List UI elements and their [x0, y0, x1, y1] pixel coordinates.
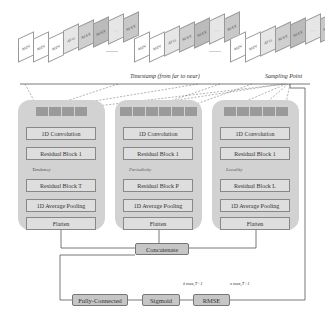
residual-block-1: Residual Block 1: [220, 147, 290, 160]
flatten-block: Flatten: [220, 217, 290, 230]
ellipsis: ……: [106, 47, 118, 53]
branch-locality: 1D Convolution Residual Block 1 Locality…: [212, 100, 299, 230]
residual-block-n: Residual Block P: [123, 179, 193, 192]
feature-map: [36, 107, 87, 116]
branch-tendency: 1D Convolution Residual Block 1 Tendency…: [18, 100, 105, 230]
avg-pool-block: 1D Average Pooling: [123, 199, 193, 212]
rmse-block: RMSE: [193, 294, 230, 306]
feature-map: [224, 107, 288, 116]
input-stack-near: MIN MIN AVG MAX MAX … MAX: [230, 15, 320, 60]
sampling-point-label: Sampling Point: [265, 73, 302, 79]
input-stack-far: MIN MIN MIN AVG MAX MAX … MAX: [18, 15, 128, 60]
conv-block: 1D Convolution: [26, 127, 96, 140]
avg-pool-block: 1D Average Pooling: [220, 199, 290, 212]
concatenate-block: Concatenate: [135, 243, 189, 255]
sigmoid-block: Sigmoid: [142, 294, 180, 306]
branch-periodicity: 1D Convolution Residual Block 1 Periodic…: [115, 100, 202, 230]
residual-block-n: Residual Block T: [26, 179, 96, 192]
feature-map: [120, 107, 197, 116]
conv-block: 1D Convolution: [220, 127, 290, 140]
input-stack-mid: MIN MIN AVG MAX MAX … MAX: [134, 15, 224, 60]
timeline-label: Timestamp (from far to near): [130, 73, 200, 79]
avg-pool-block: 1D Average Pooling: [26, 199, 96, 212]
prediction-label: x̂ max,T+1: [183, 281, 203, 286]
feature-label: Periodicity: [129, 167, 151, 172]
fully-connected-block: Fully-Connected: [72, 294, 128, 306]
flatten-block: Flatten: [26, 217, 96, 230]
residual-block-1: Residual Block 1: [26, 147, 96, 160]
residual-block-n: Residual Block L: [220, 179, 290, 192]
conv-block: 1D Convolution: [123, 127, 193, 140]
ellipsis-2: ……: [209, 47, 221, 53]
residual-block-1: Residual Block 1: [123, 147, 193, 160]
feature-label: Locality: [226, 167, 242, 172]
flatten-block: Flatten: [123, 217, 193, 230]
feature-label: Tendency: [32, 167, 51, 172]
ground-truth-label: x max,T+1: [230, 281, 250, 286]
